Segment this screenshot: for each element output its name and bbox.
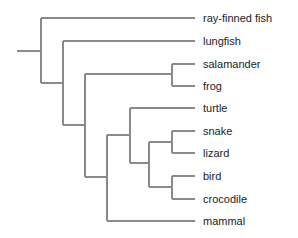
taxon-label-lizard: lizard xyxy=(203,147,229,159)
taxon-label-mammal: mammal xyxy=(203,215,245,227)
taxon-label-ray-finned-fish: ray-finned fish xyxy=(203,12,272,24)
taxon-label-snake: snake xyxy=(203,125,232,137)
phylogenetic-tree xyxy=(0,0,298,238)
taxon-label-salamander: salamander xyxy=(203,58,260,70)
taxon-label-turtle: turtle xyxy=(203,102,227,114)
taxon-label-bird: bird xyxy=(203,170,221,182)
taxon-label-crocodile: crocodile xyxy=(203,193,247,205)
taxon-label-frog: frog xyxy=(203,80,222,92)
taxon-label-lungfish: lungfish xyxy=(203,35,241,47)
